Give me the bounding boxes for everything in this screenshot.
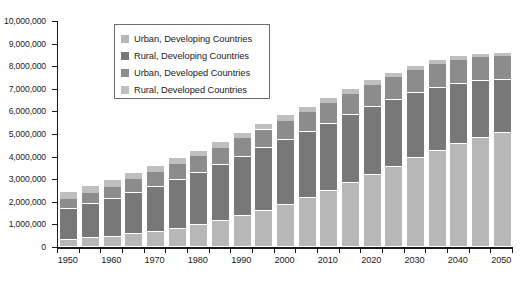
bar-segment: [125, 179, 142, 192]
y-axis-tick-label: 7,000,000: [9, 85, 46, 93]
bar-segment: [212, 142, 229, 148]
legend-label: Urban, Developing Countries: [134, 34, 252, 44]
x-axis-tick: [360, 248, 361, 253]
bar-segment: [147, 232, 164, 247]
bar-segment: [255, 148, 272, 210]
bar-1965: [125, 173, 142, 247]
bar-segment: [342, 89, 359, 94]
bar-segment: [82, 204, 99, 238]
bar-segment: [472, 57, 489, 81]
bar-1970: [147, 166, 164, 247]
bar-1975: [169, 158, 186, 247]
bar-segment: [385, 167, 402, 247]
legend-item: Rural, Developing Countries: [121, 47, 269, 64]
bar-segment: [60, 192, 77, 199]
bar-segment: [212, 221, 229, 247]
bar-segment: [277, 115, 294, 120]
chart-legend: Urban, Developing CountriesRural, Develo…: [114, 24, 270, 99]
bar-segment: [299, 107, 316, 112]
bar-segment: [255, 211, 272, 247]
bar-segment: [320, 103, 337, 124]
legend-swatch-icon: [121, 69, 129, 77]
bar-segment: [104, 187, 121, 199]
x-axis-tick-label: 1960: [101, 255, 121, 265]
bar-segment: [450, 144, 467, 247]
bar-segment: [255, 130, 272, 149]
legend-item: Urban, Developing Countries: [121, 30, 269, 47]
x-axis-tick: [339, 248, 340, 253]
bar-segment: [494, 56, 511, 80]
x-axis-tick-label: 2030: [404, 255, 424, 265]
x-axis-tick-label: 1950: [58, 255, 78, 265]
y-axis-tick-label: 6,000,000: [9, 107, 46, 115]
bar-segment: [60, 240, 77, 247]
bar-segment: [407, 158, 424, 247]
legend-item: Rural, Developed Countries: [121, 81, 269, 98]
x-axis-tick: [295, 248, 296, 253]
legend-swatch-icon: [121, 35, 129, 43]
x-axis-tick: [404, 248, 405, 253]
bar-segment: [104, 199, 121, 237]
bar-2050: [494, 53, 511, 247]
y-axis-tick-label: 3,000,000: [9, 175, 46, 183]
bar-segment: [494, 133, 511, 247]
bar-segment: [147, 166, 164, 172]
x-axis-tick-label: 2000: [274, 255, 294, 265]
bar-segment: [125, 234, 142, 247]
bar-segment: [429, 60, 446, 64]
bar-segment: [364, 175, 381, 247]
bar-segment: [299, 132, 316, 198]
bar-segment: [342, 183, 359, 247]
bar-1955: [82, 186, 99, 247]
x-axis-tick: [187, 248, 188, 253]
bar-2040: [450, 56, 467, 247]
x-axis-tick: [79, 248, 80, 253]
bar-segment: [342, 94, 359, 116]
bar-segment: [169, 180, 186, 229]
bar-segment: [169, 229, 186, 247]
bar-segment: [125, 193, 142, 234]
x-axis-tick: [57, 248, 58, 253]
y-axis-tick-label: 2,000,000: [9, 198, 46, 206]
x-axis-tick-label: 1980: [188, 255, 208, 265]
bar-segment: [472, 54, 489, 57]
bar-segment: [277, 205, 294, 247]
bar-2030: [407, 66, 424, 247]
bar-segment: [320, 98, 337, 103]
bar-segment: [407, 66, 424, 70]
bar-segment: [429, 88, 446, 151]
bar-segment: [60, 209, 77, 241]
y-axis-tick-label: 5,000,000: [9, 130, 46, 138]
x-axis-tick-label: 2010: [318, 255, 338, 265]
bar-segment: [385, 100, 402, 167]
bar-segment: [104, 237, 121, 247]
bar-segment: [234, 133, 251, 138]
x-axis-tick: [230, 248, 231, 253]
legend-swatch-icon: [121, 86, 129, 94]
y-axis-tick-label: 1,000,000: [9, 220, 46, 228]
bar-segment: [320, 124, 337, 191]
bar-segment: [212, 165, 229, 221]
bar-segment: [472, 81, 489, 138]
legend-swatch-icon: [121, 52, 129, 60]
bar-segment: [277, 140, 294, 204]
bar-2020: [364, 80, 381, 247]
bar-segment: [234, 157, 251, 216]
x-axis-tick: [425, 248, 426, 253]
bar-segment: [190, 173, 207, 225]
bar-2015: [342, 89, 359, 247]
x-axis-tick: [382, 248, 383, 253]
x-axis-tick-label: 2040: [448, 255, 468, 265]
x-axis-tick: [512, 248, 513, 253]
y-axis-tick-label: 8,000,000: [9, 62, 46, 70]
bar-2025: [385, 73, 402, 247]
x-axis-tick-label: 1990: [231, 255, 251, 265]
y-axis-tick-label: 0: [41, 243, 46, 251]
bar-1990: [234, 133, 251, 247]
legend-label: Urban, Developed Countries: [134, 68, 250, 78]
bar-segment: [407, 70, 424, 93]
legend-item: Urban, Developed Countries: [121, 64, 269, 81]
x-axis-tick: [165, 248, 166, 253]
bar-segment: [494, 80, 511, 133]
bar-1985: [212, 142, 229, 247]
